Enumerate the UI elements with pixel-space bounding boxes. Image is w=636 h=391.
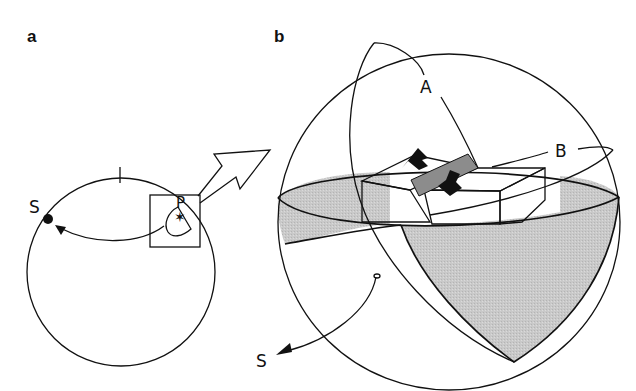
plane-b-label: B <box>555 141 567 161</box>
earth-circle <box>27 178 215 366</box>
ray-origin-marker <box>374 274 380 278</box>
zoom-arrow-icon <box>198 150 270 203</box>
panel-b: b A B <box>256 27 620 390</box>
point-label: P <box>176 194 185 212</box>
station-dot <box>43 214 53 224</box>
ray-arrowhead-b-icon <box>276 343 292 355</box>
focal-mechanism-diagram: a S ✶ P b <box>0 0 636 391</box>
right-block-front <box>424 190 500 224</box>
ray-path-b <box>287 277 376 351</box>
nodal-plane-a-top <box>374 43 424 75</box>
nodal-plane-b-right <box>578 147 613 150</box>
panel-a: a S ✶ P <box>27 27 270 366</box>
ray-path <box>60 226 164 241</box>
plane-a-label: A <box>420 77 432 97</box>
station-label-b: S <box>256 351 267 371</box>
station-label-a: S <box>29 197 40 217</box>
nodal-plane-b-left <box>492 152 548 167</box>
panel-b-label: b <box>274 27 284 46</box>
panel-a-label: a <box>27 27 37 46</box>
